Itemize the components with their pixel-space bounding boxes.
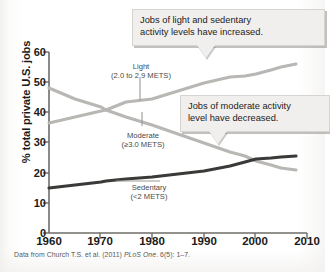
- x-tick-1970: 1970: [78, 236, 122, 248]
- callout-moderate-line1: Jobs of moderate activity: [188, 101, 322, 113]
- x-tick-1990: 1990: [182, 236, 226, 248]
- series-label-light-mets: (2.0 to 2.9 METS): [104, 71, 178, 80]
- series-label-sedentary: Sedentary (<2 METS): [114, 183, 184, 202]
- source-note: Data from Church T.S. et al. (2011) PLoS…: [14, 251, 190, 258]
- series-label-light: Light (2.0 to 2.9 METS): [104, 62, 178, 81]
- callout-moderate-line2: level have decreased.: [188, 113, 322, 125]
- series-label-moderate-mets: (≥3.0 METS): [108, 140, 178, 149]
- series-label-moderate: Moderate (≥3.0 METS): [108, 131, 178, 150]
- callout-light-sedentary: Jobs of light and sedentary activity lev…: [132, 9, 325, 46]
- callout-tail-icon: [197, 45, 215, 58]
- x-tick-1980: 1980: [130, 236, 174, 248]
- series-label-sedentary-name: Sedentary: [114, 183, 184, 192]
- callout-tail-icon: [209, 131, 227, 144]
- series-label-light-name: Light: [104, 62, 178, 71]
- callout-light-sedentary-line2: activity levels have increased.: [140, 27, 317, 39]
- callout-moderate: Jobs of moderate activity level have dec…: [180, 95, 330, 132]
- x-tick-1960: 1960: [27, 236, 71, 248]
- x-tick-2000: 2000: [233, 236, 277, 248]
- source-note-journal: PLoS One: [124, 251, 156, 258]
- source-note-prefix: Data from Church T.S. et al. (2011): [14, 251, 124, 258]
- series-label-sedentary-mets: (<2 METS): [114, 192, 184, 201]
- source-note-suffix: . 6(5): 1–7.: [156, 251, 190, 258]
- series-label-moderate-name: Moderate: [108, 131, 178, 140]
- callout-light-sedentary-line1: Jobs of light and sedentary: [140, 15, 317, 27]
- x-tick-2010: 2010: [285, 236, 329, 248]
